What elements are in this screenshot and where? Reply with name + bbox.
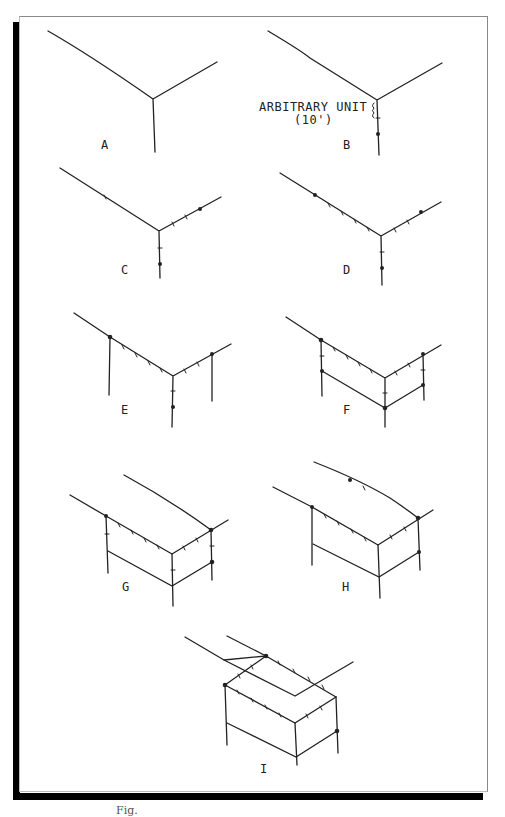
panel-b-label: B — [343, 138, 350, 152]
panel-h: H — [273, 462, 433, 598]
panel-f-label: F — [343, 403, 350, 417]
panel-i-label: I — [260, 762, 267, 776]
panel-c-label: C — [121, 263, 128, 277]
panel-i: I — [185, 636, 353, 776]
panel-d: D — [280, 173, 441, 285]
panel-d-label: D — [343, 263, 350, 277]
arbitrary-unit-value: (10') — [294, 113, 333, 127]
panel-g-label: G — [122, 580, 129, 594]
figure-caption: Fig. — [116, 804, 138, 817]
panel-g: G — [70, 475, 228, 606]
arbitrary-unit-label: ARBITRARY UNIT — [259, 100, 367, 114]
panel-e: E — [74, 313, 231, 427]
panel-b: ARBITRARY UNIT (10') B — [259, 31, 442, 155]
panel-f: F — [286, 317, 441, 427]
panel-h-label: H — [342, 580, 349, 594]
panel-e-label: E — [121, 403, 128, 417]
panel-a: A — [48, 31, 217, 152]
panel-c: C — [60, 168, 221, 278]
panel-a-label: A — [101, 138, 109, 152]
